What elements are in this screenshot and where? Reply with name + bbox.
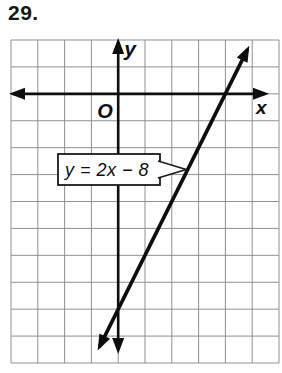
graph-canvas: y = 2x − 8 y x O [0, 0, 282, 373]
origin-label: O [97, 100, 113, 122]
worksheet-figure: 29. y = 2x − 8 y x O [0, 0, 282, 373]
coordinate-grid [11, 40, 279, 363]
equation-callout: y = 2x − 8 [58, 154, 186, 185]
y-axis-label: y [123, 37, 137, 60]
x-axis-label: x [255, 97, 268, 118]
equation-label: y = 2x − 8 [63, 160, 149, 180]
